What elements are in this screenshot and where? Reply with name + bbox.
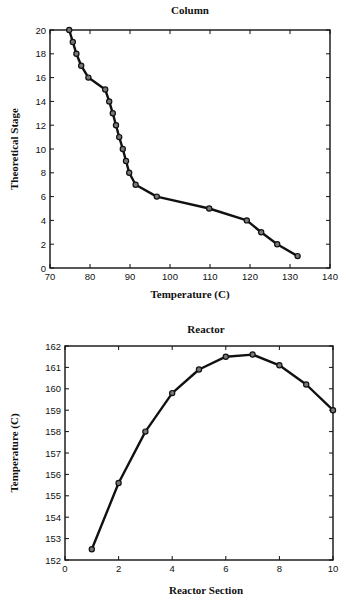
reactor-data-point (143, 429, 148, 434)
column-y-tick-label: 8 (41, 167, 46, 178)
reactor-x-axis-label: Reactor Section (169, 584, 243, 596)
figure: Column Temperature (C) Theoretical Stage… (0, 0, 346, 602)
reactor-y-tick-label: 155 (45, 490, 61, 501)
column-data-point (113, 123, 118, 128)
column-y-tick-label: 20 (35, 25, 46, 36)
column-y-tick-label: 16 (35, 72, 46, 83)
reactor-x-tick-label: 2 (116, 563, 121, 574)
reactor-y-tick-label: 156 (45, 469, 61, 480)
column-x-tick-label: 110 (202, 271, 217, 282)
reactor-y-tick-label: 152 (45, 555, 61, 566)
column-y-tick-label: 6 (41, 191, 46, 202)
reactor-y-tick-label: 162 (45, 341, 61, 352)
reactor-y-axis-label: Temperature (C) (8, 413, 21, 492)
reactor-chart: Reactor Reactor Section Temperature (C) … (8, 323, 338, 596)
column-data-point (127, 170, 132, 175)
column-data-point (244, 218, 249, 223)
reactor-y-tick-label: 160 (45, 383, 61, 394)
column-data-point (275, 242, 280, 247)
column-y-tick-label: 0 (41, 263, 46, 274)
reactor-x-tick-label: 0 (62, 563, 67, 574)
reactor-y-tick-label: 161 (45, 362, 61, 373)
column-data-point (259, 230, 264, 235)
reactor-data-point (196, 367, 201, 372)
reactor-x-tick-label: 6 (223, 563, 228, 574)
column-y-tick-label: 12 (35, 120, 46, 131)
column-data-point (110, 111, 115, 116)
column-y-axis-label: Theoretical Stage (8, 108, 20, 190)
column-data-point (70, 39, 75, 44)
column-x-tick-label: 100 (162, 271, 178, 282)
reactor-y-tick-label: 158 (45, 426, 61, 437)
reactor-data-point (223, 354, 228, 359)
column-data-point (79, 63, 84, 68)
column-plot-frame (50, 30, 330, 268)
reactor-y-tick-label: 154 (45, 512, 61, 523)
column-data-point (107, 99, 112, 104)
reactor-data-point (116, 480, 121, 485)
reactor-data-point (277, 363, 282, 368)
column-data-point (123, 158, 128, 163)
column-data-point (117, 135, 122, 140)
column-data-point (86, 75, 91, 80)
column-y-tick-label: 10 (35, 144, 46, 155)
reactor-y-tick-label: 159 (45, 405, 61, 416)
reactor-chart-title: Reactor (187, 323, 224, 335)
reactor-data-point (250, 352, 255, 357)
column-x-tick-label: 130 (282, 271, 298, 282)
column-data-point (154, 194, 159, 199)
column-data-point (295, 254, 300, 259)
column-y-tick-label: 4 (41, 215, 46, 226)
reactor-x-tick-label: 4 (170, 563, 175, 574)
column-x-tick-label: 140 (322, 271, 338, 282)
reactor-x-tick-label: 10 (328, 563, 339, 574)
reactor-y-tick-label: 157 (45, 448, 61, 459)
column-x-tick-label: 120 (242, 271, 258, 282)
column-x-tick-label: 70 (45, 271, 56, 282)
column-x-tick-label: 90 (125, 271, 136, 282)
column-x-tick-label: 80 (85, 271, 96, 282)
column-y-tick-label: 14 (35, 96, 46, 107)
reactor-data-point (304, 382, 309, 387)
column-data-point (74, 51, 79, 56)
column-data-point (120, 146, 125, 151)
reactor-y-tick-label: 153 (45, 533, 61, 544)
column-y-tick-label: 18 (35, 48, 46, 59)
reactor-data-point (89, 547, 94, 552)
column-y-tick-label: 2 (41, 239, 46, 250)
reactor-data-point (330, 408, 335, 413)
column-series-line (69, 30, 297, 256)
reactor-data-point (170, 390, 175, 395)
column-data-point (207, 206, 212, 211)
column-x-axis-label: Temperature (C) (150, 288, 229, 301)
column-data-point (103, 87, 108, 92)
reactor-series-line (92, 355, 333, 550)
column-data-point (133, 182, 138, 187)
column-chart: Column Temperature (C) Theoretical Stage… (8, 4, 338, 301)
column-data-point (67, 27, 72, 32)
reactor-x-tick-label: 8 (277, 563, 282, 574)
reactor-plot-frame (65, 346, 333, 560)
column-chart-title: Column (171, 4, 209, 16)
